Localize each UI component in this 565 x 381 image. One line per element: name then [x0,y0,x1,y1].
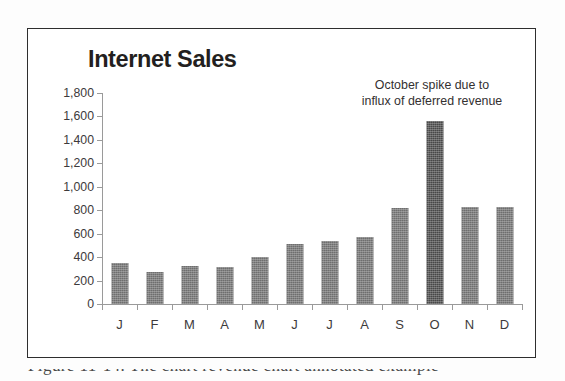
x-axis-label-november: N [465,317,474,332]
bar-m-4 [251,257,268,304]
y-axis-tick-label: 1,400 [63,133,94,147]
x-axis-tick [487,304,488,310]
figure-caption-text: Figure 11-14. The chart revenue chart an… [28,369,439,375]
x-axis-tick [137,304,138,310]
x-axis-tick [382,304,383,310]
x-axis-tick [312,304,313,310]
y-axis-tick-label: 200 [73,274,94,288]
figure-caption-cropped: Figure 11-14. The chart revenue chart an… [28,369,548,381]
x-axis-label-may: M [254,317,265,332]
x-axis-tick [102,304,103,310]
y-axis-tick-label: 1,600 [63,109,94,123]
bar-o-9 [426,121,443,304]
x-axis-label-june: J [291,317,298,332]
bar-j-5 [286,244,303,304]
bar-slot [242,93,277,304]
bar-slot [172,93,207,304]
x-axis-label-april: A [220,317,229,332]
bar-slot [207,93,242,304]
x-axis-tick [522,304,523,310]
x-axis-tick [347,304,348,310]
x-axis-label-august: A [360,317,369,332]
bar-j-0 [111,263,128,304]
x-axis-tick [172,304,173,310]
bar-slot [382,93,417,304]
y-axis-tick-label: 400 [73,250,94,264]
x-axis-label-february: F [151,317,159,332]
x-axis-labels: JFMAMJJASOND [102,317,522,337]
bar-d-11 [496,207,513,304]
bar-a-7 [356,237,373,304]
plot-area: 1,8001,6001,4001,2001,0008006004002000 [102,93,522,304]
x-axis-tick [417,304,418,310]
chart-annotation-line-1: October spike due to [334,77,530,93]
bar-slot [102,93,137,304]
x-axis-label-october: O [429,317,439,332]
x-axis-label-march: M [184,317,195,332]
bar-n-10 [461,207,478,304]
y-axis-tick-label: 0 [87,297,94,311]
x-axis-tick [207,304,208,310]
bar-slot [277,93,312,304]
bar-m-2 [181,266,198,304]
bar-f-1 [146,272,163,304]
bar-slot [487,93,522,304]
x-axis-label-january: J [116,317,123,332]
y-axis-tick-label: 1,200 [63,156,94,170]
x-axis-tick [242,304,243,310]
chart-title: Internet Sales [88,46,237,73]
chart-figure-frame: Internet Sales October spike due to infl… [27,28,536,358]
bar-s-8 [391,208,408,304]
x-axis-label-september: S [395,317,404,332]
x-axis-label-december: D [500,317,509,332]
bar-slot [452,93,487,304]
bar-slot [312,93,347,304]
bar-a-3 [216,267,233,305]
scanned-page: Internet Sales October spike due to infl… [0,0,565,381]
bar-j-6 [321,241,338,304]
bar-slot [137,93,172,304]
y-axis-tick-label: 1,800 [63,86,94,100]
x-axis-tick [452,304,453,310]
y-axis-tick-label: 800 [73,203,94,217]
bar-slot [347,93,382,304]
y-axis-tick-label: 600 [73,227,94,241]
y-axis-tick-label: 1,000 [63,180,94,194]
x-axis-label-july: J [326,317,333,332]
bar-slot [417,93,452,304]
x-axis-tick [277,304,278,310]
